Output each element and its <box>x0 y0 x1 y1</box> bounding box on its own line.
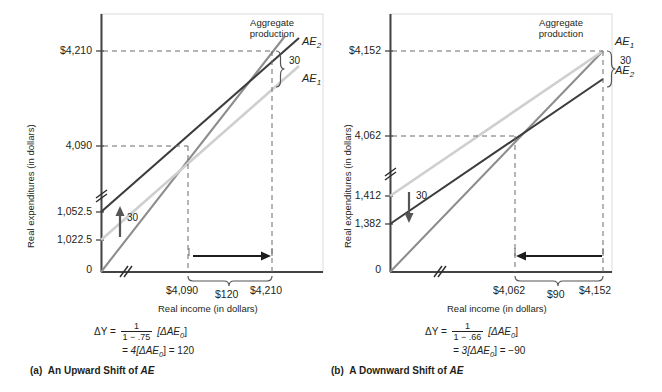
line-ae1 <box>390 51 603 196</box>
panel-b-fraction: 1 1 − .66 <box>452 321 484 342</box>
panel-b-y-tick-4152: $4,152 <box>331 45 381 56</box>
income-increase-arrow-icon <box>193 252 271 261</box>
panel-b-aggregate-production-label: Aggregate production <box>522 17 600 39</box>
panel-b-gap-amount-label: 30 <box>620 56 631 66</box>
panel-a-y-tick-4210: $4,210 <box>30 45 92 56</box>
agg-label-line2: production <box>539 28 583 39</box>
panel-b-y-axis-title: Real expenditures (in dollars) <box>343 124 353 248</box>
line-ae2 <box>101 38 299 212</box>
panel-a-y-tick-1022-5: 1,022.5 <box>26 234 92 245</box>
panel-a-x-axis-title: Real income (in dollars) <box>158 304 258 314</box>
agg-label-line1: Aggregate <box>250 17 294 28</box>
panel-a-fraction: 1 1 − .75 <box>121 321 153 342</box>
downward-shift-arrow-icon <box>405 192 414 223</box>
panel-a-x-tick-4090: $4,090 <box>166 285 198 296</box>
panel-a-formula-line2: = 4[ΔAE0] = 120 <box>122 345 194 359</box>
panel-a-formula-line1: ΔY = 1 1 − .75 [ΔAE0] <box>94 322 187 343</box>
panel-a-income-gap-label: $120 <box>215 289 238 300</box>
panel-a-curve-label-ae1: AE1 <box>302 73 321 87</box>
line-aggregate-production <box>101 36 285 272</box>
panel-a-y-tick-1052-5: 1,052.5 <box>26 206 92 217</box>
panel-a-upward-shift: Real expenditures (in dollars) $4,210 4,… <box>0 0 331 392</box>
panel-b-y-tick-1382: 1,382 <box>331 218 381 229</box>
panel-b-formula-line2: = 3[ΔAE0] = −90 <box>453 345 525 359</box>
panel-a-y-tick-zero: 0 <box>62 264 92 275</box>
panel-b-x-axis-title: Real income (in dollars) <box>447 304 547 314</box>
panel-b-formula-line1: ΔY = 1 1 − .66 [ΔAE0] <box>425 322 518 343</box>
agg-label-line1: Aggregate <box>539 17 583 28</box>
line-aggregate-production <box>390 51 603 272</box>
panel-b-downward-shift: Real expenditures (in dollars) $4,152 4,… <box>331 0 662 392</box>
panel-b-y-tick-1412: 1,412 <box>331 190 381 201</box>
agg-label-line2: production <box>250 28 294 39</box>
panel-b-x-tick-4152: $4,152 <box>579 285 611 296</box>
panel-a-x-tick-4210: $4,210 <box>250 285 282 296</box>
panel-b-curve-label-ae1: AE1 <box>615 36 634 50</box>
plot-frame <box>390 14 612 272</box>
panel-a-aggregate-production-label: Aggregate production <box>233 17 311 39</box>
panel-a-curve-label-ae2: AE2 <box>302 36 321 50</box>
panel-a-caption: (a) An Upward Shift of AE <box>30 365 154 376</box>
panel-a-shift-amount-label: 30 <box>127 213 138 223</box>
line-ae2 <box>390 79 603 224</box>
panel-b-y-tick-4062: 4,062 <box>331 130 381 141</box>
panel-b-shift-amount-label: 30 <box>416 191 427 201</box>
panel-a-y-tick-4090: 4,090 <box>30 140 92 151</box>
panel-b-x-tick-4062: $4,062 <box>493 285 525 296</box>
panel-a-gap-amount-label: 30 <box>289 56 300 66</box>
economics-figure-aggregate-expenditures: Real expenditures (in dollars) $4,210 4,… <box>0 0 662 392</box>
income-decrease-arrow-icon <box>516 252 602 261</box>
y-tick-marks <box>385 51 393 224</box>
panel-b-curve-label-ae2: AE2 <box>615 65 634 79</box>
panel-b-caption: (b) A Downward Shift of AE <box>331 365 463 376</box>
panel-b-y-tick-zero: 0 <box>351 264 381 275</box>
panel-b-income-gap-label: $90 <box>547 289 565 300</box>
arrow-end-ticks <box>515 248 603 256</box>
arrow-end-ticks <box>189 248 272 256</box>
